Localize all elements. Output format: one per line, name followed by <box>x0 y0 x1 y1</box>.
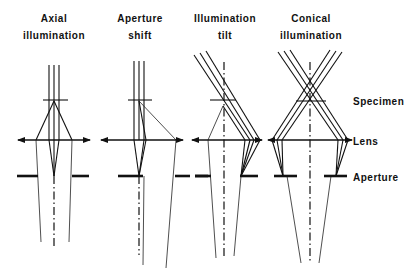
aperture-shift-diagram <box>101 61 208 268</box>
optics-diagram <box>0 0 415 280</box>
conical-illumination-diagram <box>268 50 352 263</box>
axial-illumination-diagram <box>17 65 90 248</box>
illumination-tilt-diagram <box>192 51 262 258</box>
